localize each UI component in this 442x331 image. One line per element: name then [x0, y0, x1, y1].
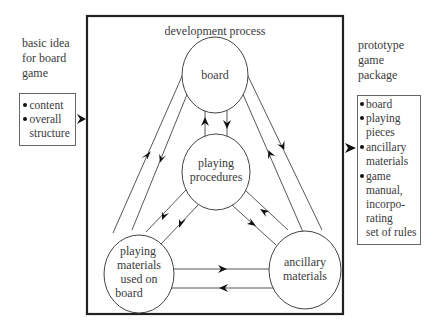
output-item-manual: manual, — [366, 184, 403, 197]
development-process-diagram: basic idea for board game content overal… — [0, 0, 442, 331]
input-item-overall: overall — [30, 113, 62, 125]
output-item-ancillary: ancillary — [366, 141, 406, 154]
output-item-playing: playing — [366, 112, 401, 125]
svg-text:prototype: prototype — [358, 38, 404, 52]
output-item-materials: materials — [366, 155, 409, 167]
input-item-content: content — [30, 99, 65, 111]
output-item-game: game — [366, 170, 391, 183]
input-arrow-icon — [77, 114, 86, 124]
node-playing-procedures: playing procedures — [182, 134, 250, 210]
svg-text:procedures: procedures — [190, 170, 243, 184]
bullet-icon — [360, 116, 364, 120]
output-item-set-of-rules: set of rules — [366, 226, 417, 238]
output-item-rating: rating — [366, 212, 393, 225]
svg-text:game: game — [22, 66, 48, 80]
node-playing-materials: playing materials used on board — [104, 235, 174, 313]
arrow-icon — [162, 212, 169, 220]
svg-text:ancillary: ancillary — [284, 255, 326, 269]
node-board: board — [182, 37, 248, 113]
input-item-structure: structure — [30, 127, 70, 139]
bullet-icon — [23, 103, 27, 107]
arrow-icon — [247, 218, 256, 226]
input-label: basic idea for board game — [22, 36, 70, 80]
output-item-incorpo: incorpo- — [366, 198, 405, 211]
svg-text:board: board — [115, 286, 142, 300]
svg-text:basic idea: basic idea — [22, 36, 70, 50]
diagram-title: development process — [165, 24, 266, 38]
svg-text:used on: used on — [121, 272, 158, 286]
bullet-icon — [360, 102, 364, 106]
arrow-down-icon — [156, 153, 166, 164]
svg-text:materials: materials — [117, 258, 161, 272]
output-item-pieces: pieces — [366, 126, 395, 139]
output-label: prototype game package — [358, 38, 404, 82]
arrow-up-icon — [265, 149, 276, 160]
arrow-down-icon — [277, 141, 288, 152]
svg-text:board: board — [201, 68, 228, 82]
svg-text:materials: materials — [283, 269, 327, 283]
svg-text:for board: for board — [22, 51, 66, 65]
svg-text:playing: playing — [198, 156, 234, 170]
output-item-board: board — [366, 98, 392, 110]
arrow-icon — [179, 219, 186, 228]
output-arrow-icon — [345, 143, 356, 153]
arrow-icon — [260, 209, 269, 217]
bullet-icon — [360, 174, 364, 178]
bullet-icon — [23, 117, 27, 121]
svg-text:package: package — [358, 68, 397, 82]
node-ancillary-materials: ancillary materials — [269, 231, 341, 309]
bullet-icon — [360, 145, 364, 149]
svg-text:playing: playing — [120, 244, 156, 258]
svg-text:game: game — [358, 53, 384, 67]
